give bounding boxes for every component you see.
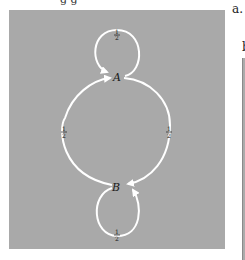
node-b: B	[111, 181, 120, 194]
edge-b-to-a-left	[62, 78, 112, 185]
svg-text:1: 1	[62, 125, 66, 132]
svg-text:2: 2	[115, 34, 119, 41]
node-a: A	[112, 71, 121, 84]
label-left-arc: 1 2	[61, 125, 67, 139]
svg-text:2: 2	[62, 132, 66, 139]
svg-text:2: 2	[115, 235, 119, 242]
svg-text:1: 1	[167, 125, 171, 132]
label-b-to-b: 1 2	[114, 228, 120, 242]
svg-text:1: 1	[115, 228, 119, 235]
svg-text:2: 2	[167, 132, 171, 139]
edge-a-to-b-right	[124, 78, 170, 184]
label-right-arc: 1 2	[166, 125, 172, 139]
state-diagram: A B 1 2 1 2 1 2 1 2	[0, 0, 245, 260]
